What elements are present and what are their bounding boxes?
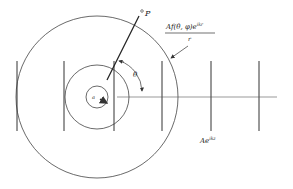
point-p-marker — [141, 10, 144, 13]
incident-wave-label: Aeikz — [199, 136, 216, 145]
radius-arrow — [100, 99, 107, 103]
theta-arc — [120, 61, 142, 91]
scattered-wave-numerator: Af(θ, φ)eikr — [165, 22, 204, 31]
point-p-label: P — [144, 9, 151, 18]
plane-wavefronts — [17, 61, 259, 131]
scattered-wave-denominator: r — [188, 35, 192, 42]
scattering-diagram: P Af(θ, φ)eikr r θ a Aeikz — [0, 0, 293, 189]
radius-label: a — [92, 94, 95, 100]
pointer-arrow — [171, 46, 188, 58]
inner-circle — [86, 86, 108, 108]
theta-arc-start-arrow — [119, 61, 124, 62]
